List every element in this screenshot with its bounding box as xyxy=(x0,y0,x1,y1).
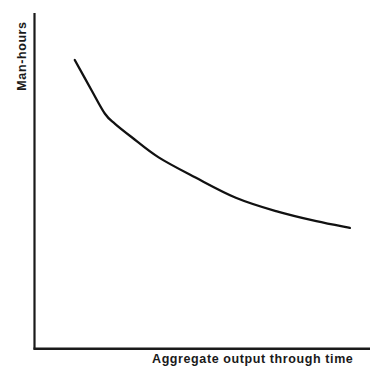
y-axis-label-text: Man-hours xyxy=(16,21,29,90)
x-axis-label-text: Aggregate output through time xyxy=(152,352,353,366)
x-axis-label: Aggregate output through time xyxy=(152,353,353,366)
learning-curve-chart: Man-hours Aggregate output through time xyxy=(0,0,378,377)
learning-curve-line xyxy=(75,60,350,228)
y-axis-label: Man-hours xyxy=(0,0,44,110)
chart-plot-area xyxy=(0,0,378,377)
